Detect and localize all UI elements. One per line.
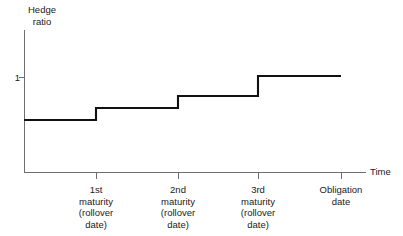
x-axis-label-2nd-maturity: 2ndmaturity(rolloverdate)	[133, 184, 223, 230]
x-axis-label-line: date)	[133, 219, 223, 231]
y-axis-title-line-2: ratio	[28, 16, 56, 28]
x-axis-label-line: 2nd	[133, 184, 223, 196]
x-axis-label-1st-maturity: 1stmaturity(rolloverdate)	[51, 184, 141, 230]
x-axis-label-line: maturity	[51, 196, 141, 208]
x-axis-label-line: maturity	[133, 196, 223, 208]
x-axis-label-obligation-date: Obligationdate	[296, 184, 386, 207]
x-axis-label-line: (rollover	[133, 207, 223, 219]
x-axis-label-line: (rollover	[213, 207, 303, 219]
x-axis-label-line: (rollover	[51, 207, 141, 219]
x-axis-label-line: 1st	[51, 184, 141, 196]
x-axis-title: Time	[370, 166, 391, 177]
x-axis-label-line: date)	[213, 219, 303, 231]
x-axis-label-3rd-maturity: 3rdmaturity(rolloverdate)	[213, 184, 303, 230]
x-axis-label-line: maturity	[213, 196, 303, 208]
y-axis-title: Hedgeratio	[28, 4, 56, 27]
x-axis-label-line: date	[296, 196, 386, 208]
hedge-ratio-step-line	[24, 76, 341, 120]
hedge-ratio-step-chart: Hedgeratio 1 Time 1stmaturity(rolloverda…	[0, 0, 403, 236]
y-axis-title-line-1: Hedge	[28, 4, 56, 16]
y-axis-tick-label-1: 1	[10, 72, 20, 83]
x-axis-label-line: Obligation	[296, 184, 386, 196]
x-axis-label-line: date)	[51, 219, 141, 231]
x-axis-label-line: 3rd	[213, 184, 303, 196]
